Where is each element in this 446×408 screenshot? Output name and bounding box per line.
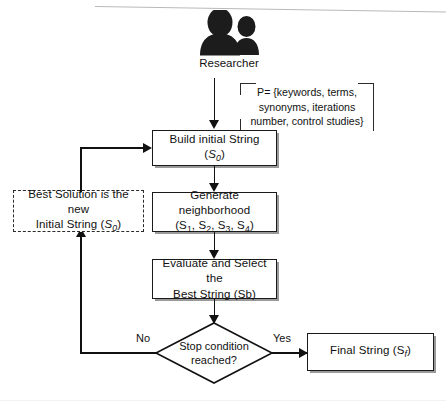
node-generate-neighborhood[interactable]: Generate neighborhood (S1, S2, S3, S4) xyxy=(152,192,277,232)
connector-decision-no-horizontal xyxy=(80,352,158,354)
node-best-solution-new-initial[interactable]: Best Solution is the new Initial String … xyxy=(13,190,144,232)
node-best-solution-label: Best Solution is the new Initial String … xyxy=(14,187,143,235)
node-final-string-label: Final String (Sf) xyxy=(324,343,417,361)
connector-feedback-horizontal-to-build xyxy=(80,147,146,149)
flowchart-canvas: Researcher P= {keywords, terms, synonyms… xyxy=(0,0,446,408)
node-stop-condition[interactable]: Stop condition reached? xyxy=(155,322,273,384)
scan-artifact-line-top xyxy=(95,6,446,13)
node-evaluate-select-best[interactable]: Evaluate and Select the Best String (Sb) xyxy=(152,259,277,299)
two-people-silhouette-icon xyxy=(190,10,268,56)
edge-label-yes: Yes xyxy=(273,332,291,344)
arrowhead-researcher-to-build xyxy=(209,120,219,129)
parameter-note-text: P= {keywords, terms, synonyms, iteration… xyxy=(240,85,374,129)
researcher-actor: Researcher xyxy=(190,10,268,74)
node-build-initial-string-label: Build initial String (S0) xyxy=(153,132,276,165)
connector-researcher-to-build xyxy=(214,78,216,124)
note-bracket-right xyxy=(373,83,374,131)
node-evaluate-select-best-label: Evaluate and Select the Best String (Sb) xyxy=(153,256,276,302)
node-final-string[interactable]: Final String (Sf) xyxy=(307,333,434,371)
researcher-label: Researcher xyxy=(190,57,268,69)
connector-no-up-to-best-solution xyxy=(80,237,82,353)
note-bracket-top-right xyxy=(358,83,374,84)
node-generate-neighborhood-label: Generate neighborhood (S1, S2, S3, S4) xyxy=(153,188,276,236)
scan-artifact-line-bottom xyxy=(0,400,446,401)
connector-best-solution-up xyxy=(80,147,82,192)
note-bracket-left-top xyxy=(240,83,241,95)
node-build-initial-string[interactable]: Build initial String (S0) xyxy=(152,130,277,166)
arrowhead-feedback-to-build xyxy=(143,143,152,153)
parameter-note: P= {keywords, terms, synonyms, iteration… xyxy=(240,83,374,131)
edge-label-no: No xyxy=(136,332,150,344)
note-bracket-top-left xyxy=(240,83,256,84)
